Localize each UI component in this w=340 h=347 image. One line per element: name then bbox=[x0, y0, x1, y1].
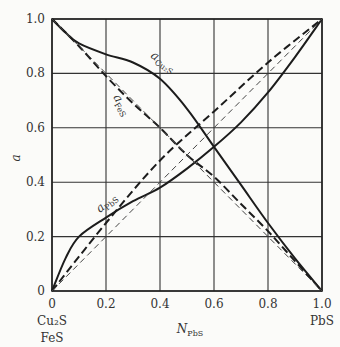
y-tick-label: 1.0 bbox=[26, 12, 45, 26]
curves bbox=[52, 19, 322, 291]
x-axis-label: NPbS bbox=[176, 322, 203, 338]
x-left-end-label-2: FeS bbox=[41, 331, 64, 345]
y-tick-label: 0.2 bbox=[26, 230, 45, 244]
svg-text:FeS: FeS bbox=[112, 101, 127, 119]
x-tick-label: 0.2 bbox=[96, 297, 115, 311]
x-tick-label: 0.8 bbox=[258, 297, 277, 311]
activity-chart: 00.20.40.60.81.0 00.20.40.60.81.0 a Cu₂S… bbox=[0, 0, 340, 347]
x-tick-label: 0 bbox=[48, 297, 56, 311]
y-tick-label: 0 bbox=[37, 284, 45, 298]
y-axis-label: a bbox=[9, 154, 23, 161]
y-tick-labels: 00.20.40.60.81.0 bbox=[26, 12, 45, 298]
x-right-end-label: PbS bbox=[310, 314, 334, 328]
y-tick-label: 0.4 bbox=[26, 175, 45, 189]
x-tick-labels: 00.20.40.60.81.0 bbox=[48, 297, 331, 311]
label-a-pbs: a PbS bbox=[93, 190, 121, 217]
x-tick-label: 1.0 bbox=[312, 297, 331, 311]
label-a-fes: a FeS bbox=[109, 92, 134, 119]
x-tick-label: 0.4 bbox=[150, 297, 169, 311]
y-tick-label: 0.8 bbox=[26, 66, 45, 80]
x-tick-label: 0.6 bbox=[204, 297, 223, 311]
x-left-end-label-1: Cu₂S bbox=[37, 314, 67, 328]
y-tick-label: 0.6 bbox=[26, 121, 45, 135]
